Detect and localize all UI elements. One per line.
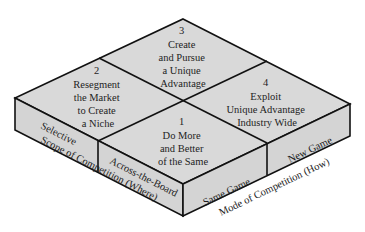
strategy-matrix-diagram: 3 Create and Pursue a Unique Advantage 2… [0, 0, 365, 232]
